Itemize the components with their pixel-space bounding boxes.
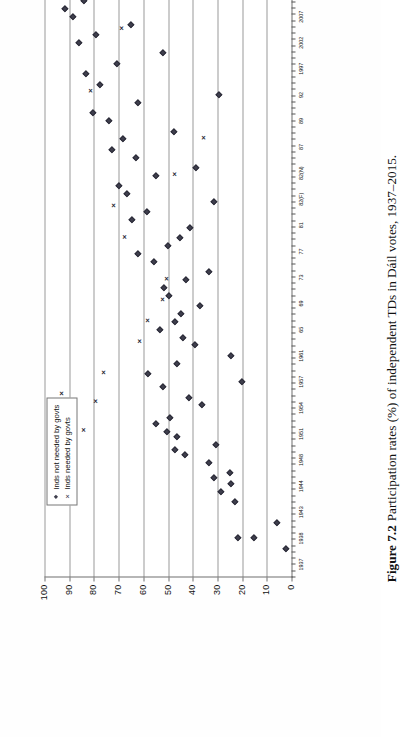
x-tick-mark xyxy=(292,189,296,190)
x-tick-mark xyxy=(292,508,296,509)
x-tick-mark xyxy=(292,402,296,403)
y-tick-label: 30 xyxy=(211,585,221,625)
cross-glyph: × xyxy=(199,135,207,140)
diamond-glyph xyxy=(80,0,88,5)
figure-caption: Figure 7.2 Participation rates (%) of in… xyxy=(379,0,404,737)
diamond-glyph xyxy=(93,31,101,39)
diamond-glyph xyxy=(109,146,117,154)
diamond-glyph xyxy=(114,60,122,68)
x-tick-mark xyxy=(292,314,296,315)
cross-glyph: × xyxy=(109,203,117,208)
diamond-glyph xyxy=(187,224,195,232)
x-tick-mark xyxy=(292,464,296,465)
x-tick-mark xyxy=(292,420,296,421)
x-tick-mark xyxy=(292,114,296,115)
x-tick-mark xyxy=(292,239,296,240)
x-tick-label: 1937 xyxy=(298,558,304,570)
diamond-glyph xyxy=(161,284,169,292)
x-tick-mark xyxy=(292,445,296,446)
diamond-glyph xyxy=(210,198,218,206)
x-tick-label: 1944 xyxy=(298,480,304,492)
cross-glyph: × xyxy=(162,276,170,281)
cross-glyph: × xyxy=(118,26,126,31)
diamond-glyph xyxy=(173,360,181,368)
x-tick-label: 1957 xyxy=(298,376,304,388)
x-tick-mark xyxy=(292,333,296,334)
x-tick-mark xyxy=(292,339,296,340)
x-tick-mark xyxy=(292,452,296,453)
diamond-glyph xyxy=(143,208,151,216)
diamond-glyph xyxy=(105,117,113,125)
diamond-glyph xyxy=(251,534,259,542)
x-tick-mark xyxy=(292,70,296,71)
x-tick-mark xyxy=(292,364,296,365)
cross-glyph: × xyxy=(92,399,100,404)
diamond-glyph xyxy=(172,446,180,454)
x-tick-mark xyxy=(292,489,296,490)
x-tick-label: 2007 xyxy=(298,11,304,23)
y-tick-label: 20 xyxy=(236,585,246,625)
x-tick-mark xyxy=(292,345,296,346)
y-tick-label: 0 xyxy=(286,585,296,625)
x-tick-mark xyxy=(292,395,296,396)
cross-glyph: × xyxy=(144,318,152,323)
x-tick-label: 1954 xyxy=(298,402,304,414)
legend-label-inds-not-needed: Inds not needed by govts xyxy=(51,405,62,490)
x-tick-label: 1997 xyxy=(298,63,304,75)
x-tick-mark xyxy=(292,220,296,221)
diamond-glyph xyxy=(227,352,235,360)
diamond-glyph xyxy=(227,480,235,488)
diamond-glyph xyxy=(128,216,136,224)
diamond-glyph xyxy=(273,519,281,527)
figure-caption-body: Participation rates (%) of independent T… xyxy=(384,155,400,521)
diamond-glyph xyxy=(135,250,143,258)
x-tick-mark xyxy=(292,14,296,15)
x-tick-mark xyxy=(292,195,296,196)
x-tick-label: 87 xyxy=(298,144,304,150)
cross-glyph: × xyxy=(120,234,128,239)
x-tick-mark xyxy=(292,352,296,353)
x-tick-mark xyxy=(292,270,296,271)
diamond-glyph xyxy=(283,545,291,553)
y-tick-label: 50 xyxy=(162,585,172,625)
diamond-glyph xyxy=(124,190,132,198)
cross-glyph: × xyxy=(79,428,87,433)
x-tick-mark xyxy=(292,483,296,484)
x-tick-mark xyxy=(292,283,296,284)
diamond-glyph xyxy=(152,420,160,428)
cross-glyph: × xyxy=(57,391,65,396)
x-tick-label: 89 xyxy=(298,118,304,124)
x-tick-mark xyxy=(292,202,296,203)
x-tick-mark xyxy=(292,58,296,59)
x-tick-mark xyxy=(292,108,296,109)
diamond-glyph xyxy=(212,441,220,449)
figure-caption-text: Figure 7.2 Participation rates (%) of in… xyxy=(379,0,404,737)
x-tick-label: 77 xyxy=(298,248,304,254)
diamond-glyph xyxy=(75,39,83,47)
diamond-glyph xyxy=(215,91,223,99)
x-tick-mark xyxy=(292,408,296,409)
chart-legend: Inds not needed by govts × Inds needed b… xyxy=(47,398,78,506)
diamond-glyph xyxy=(178,310,186,318)
x-tick-mark xyxy=(292,145,296,146)
diamond-glyph xyxy=(145,370,153,378)
diamond-glyph xyxy=(115,182,123,190)
cross-marker-icon: × xyxy=(63,493,71,501)
diamond-glyph xyxy=(235,534,243,542)
diamond-glyph xyxy=(231,498,239,506)
diamond-glyph xyxy=(151,258,159,266)
x-tick-mark xyxy=(292,308,296,309)
x-tick-mark xyxy=(292,39,296,40)
x-tick-mark xyxy=(292,439,296,440)
plot-wrapper: 0102030405060708090100 19371938194319441… xyxy=(39,0,344,622)
x-tick-label: 69 xyxy=(298,301,304,307)
diamond-glyph xyxy=(179,334,187,342)
diamond-glyph xyxy=(183,276,191,284)
x-tick-mark xyxy=(292,227,296,228)
x-tick-mark xyxy=(292,514,296,515)
x-tick-mark xyxy=(292,252,296,253)
x-tick-mark xyxy=(292,389,296,390)
figure-label: Figure 7.2 xyxy=(384,525,400,582)
x-tick-label: 65 xyxy=(298,327,304,333)
